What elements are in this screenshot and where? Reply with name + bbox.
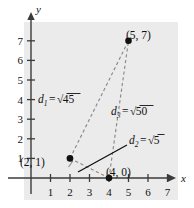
point-label-2-1: (2, 1) [20,156,45,169]
x-tick-label-6: 6 [145,186,151,198]
y-axis-label: y [35,3,41,15]
x-axis-label: x [180,172,186,184]
x-tick-label-3: 3 [87,186,93,198]
x-tick-label-7: 7 [165,186,171,198]
d1-value: 45 [63,93,75,105]
plot-background-panel [24,22,178,200]
x-tick-label-1: 1 [48,186,54,198]
d2-subscript: 2 [135,140,139,149]
figure-svg: 1234567 1234567 x y (5, 7) (2, 1) (4, 0)… [0,0,194,208]
y-axis-arrowhead [27,12,34,20]
d3-equals: = [122,105,129,117]
d3-subscript: 3 [116,111,121,120]
coordinate-plane-figure: 1234567 1234567 x y (5, 7) (2, 1) (4, 0)… [0,0,194,208]
y-tick-label-2: 2 [18,133,24,145]
y-tick-label-6: 6 [18,54,24,66]
y-tick-label-3: 3 [18,113,24,125]
d3-value: 50 [136,105,148,117]
y-axis-tick-labels: 1234567 [18,35,24,165]
d2-value: 5 [154,134,160,146]
d2-equals: = [140,134,147,146]
x-tick-label-5: 5 [126,186,132,198]
point-label-5-7: (5, 7) [126,29,151,42]
x-tick-label-4: 4 [106,186,112,198]
y-tick-label-5: 5 [18,74,24,86]
d1-equals: = [49,93,56,105]
point-2-1 [67,155,74,162]
point-label-4-0: (4, 0) [106,166,131,179]
y-tick-label-4: 4 [18,94,24,106]
y-tick-label-7: 7 [18,35,24,47]
d1-subscript: 1 [44,99,48,108]
x-tick-label-2: 2 [67,186,73,198]
